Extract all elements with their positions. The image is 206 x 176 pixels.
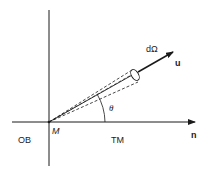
direction-vector [49, 74, 134, 122]
theta-label: θ [109, 103, 114, 113]
solid-angle-label: dΩ [146, 44, 158, 54]
direction-vector-head [138, 52, 173, 72]
medium-ob-label: OB [18, 135, 31, 145]
origin-point [48, 121, 51, 124]
cone-edge-lower [49, 82, 138, 122]
vector-u-label: u [175, 58, 181, 68]
point-m-label: M [52, 126, 60, 136]
normal-n-label: n [191, 130, 197, 140]
diagram-canvas: dΩ u θ M n OB TM [0, 0, 206, 176]
medium-tm-label: TM [111, 135, 124, 145]
solid-angle-ellipse [129, 68, 141, 82]
cone-edge-upper [49, 70, 132, 122]
diagram-svg: dΩ u θ M n OB TM [0, 0, 206, 176]
